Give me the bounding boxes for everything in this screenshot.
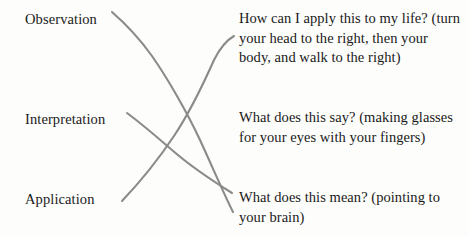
left-label-interpretation: Interpretation [25,111,105,128]
right-text-application: How can I apply this to my life? (turn y… [239,9,461,68]
left-label-application: Application [25,191,95,208]
connector-application-to-apply [122,36,234,201]
connector-observation-to-meaning [112,12,233,212]
connector-interpretation-to-say [127,113,232,193]
left-label-observation: Observation [25,11,97,28]
right-text-interpretation: What does this say? (making glasses for … [239,108,461,147]
right-text-observation: What does this mean? (pointing to your b… [239,188,461,227]
diagram-canvas: Observation Interpretation Application H… [0,0,468,237]
